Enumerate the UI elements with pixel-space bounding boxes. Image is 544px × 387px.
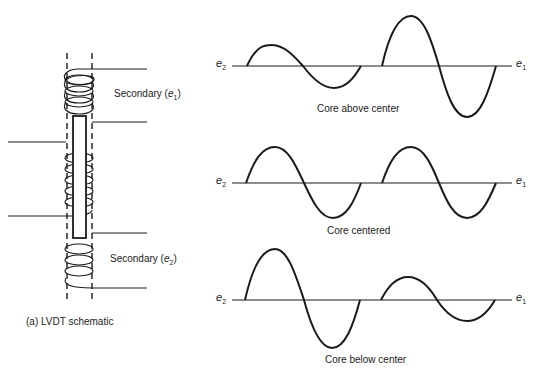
secondary-bottom-label: Secondary (e2) [110, 253, 177, 266]
subscript: 2 [222, 181, 226, 188]
schematic-caption: (a) LVDT schematic [26, 316, 113, 327]
waveform-below-center [232, 249, 512, 348]
e1-wave-small [381, 277, 495, 321]
waveform-above-center [232, 16, 512, 117]
e1-label: e1 [516, 291, 526, 305]
secondary-coil-bottom [65, 244, 93, 288]
waveform-caption-above: Core above center [317, 103, 399, 114]
waveform-caption-centered: Core centered [327, 225, 390, 236]
e1-label: e1 [516, 57, 526, 71]
e2-label: e2 [216, 57, 226, 71]
movable-core [73, 116, 86, 238]
subscript: 2 [222, 64, 226, 71]
e2-wave-large [245, 249, 360, 348]
subscript: 1 [522, 181, 526, 188]
paren: ) [177, 88, 180, 99]
paren: ) [173, 253, 176, 264]
e2-label: e2 [216, 174, 226, 188]
label-text: Secondary ( [114, 88, 168, 99]
secondary-top-label: Secondary (e1) [114, 88, 181, 101]
subscript: 2 [222, 298, 226, 305]
e2-label: e2 [216, 291, 226, 305]
subscript: 1 [522, 64, 526, 71]
e1-label: e1 [516, 174, 526, 188]
label-text: Secondary ( [110, 253, 164, 264]
subscript: 1 [522, 298, 526, 305]
secondary-coil-top [65, 69, 95, 114]
waveform-caption-below: Core below center [325, 354, 406, 365]
waveform-centered [232, 147, 512, 218]
lvdt-diagram [0, 0, 544, 387]
